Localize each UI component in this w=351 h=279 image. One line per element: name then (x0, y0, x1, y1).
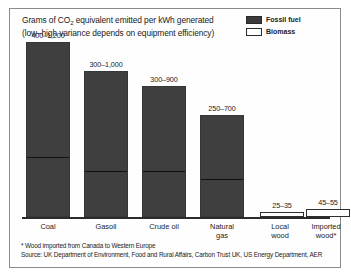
legend-label-fossil: Fossil fuel (266, 16, 301, 23)
bar-low-value-marker (143, 171, 185, 172)
legend-label-biomass: Biomass (266, 28, 295, 35)
bar-biomass (260, 212, 304, 217)
chart-title-line-1: Grams of CO2 equivalent emitted per kWh … (22, 15, 257, 28)
bar-group: 45–55 (306, 209, 350, 217)
bar-group: 300–900 (142, 86, 186, 217)
legend-item-fossil-fuel: Fossil fuel (246, 15, 332, 24)
bar-biomass (306, 209, 350, 217)
chart-legend: Fossil fuel Biomass (246, 15, 332, 39)
bar-value-label: 250–700 (192, 104, 252, 113)
x-axis-label-crude-oil: Crude oil (132, 222, 196, 231)
bar-value-label: 45–55 (298, 198, 351, 207)
chart-source: Source: UK Department of Environment, Fo… (21, 250, 333, 259)
chart-footnote: * Wood imported from Canada to Western E… (21, 241, 333, 250)
x-axis-label-coal: Coal (16, 222, 80, 231)
x-axis-label-line: wood* (294, 231, 351, 240)
x-axis-label-line: Natural (190, 222, 254, 231)
x-axis-label-gasoil: Gasoil (74, 222, 138, 231)
x-axis-label-natural-gas: Naturalgas (190, 222, 254, 240)
bar-value-label: 300–1,000 (76, 60, 136, 69)
bar-value-label: 300–900 (134, 75, 194, 84)
x-axis-label-line: gas (190, 231, 254, 240)
chart-plot-area: 400–1,200300–1,000300–900250–70025–3545–… (22, 41, 330, 219)
bar-fossil (26, 42, 70, 217)
x-axis-label-line: Crude oil (132, 222, 196, 231)
title-text-post: equivalent emitted per kWh generated (73, 15, 213, 25)
bar-group: 25–35 (260, 212, 304, 217)
legend-item-biomass: Biomass (246, 27, 332, 36)
bar-low-value-marker (85, 171, 127, 172)
legend-swatch-fossil-icon (246, 16, 262, 24)
bar-group: 250–700 (200, 115, 244, 217)
bar-fossil (84, 71, 128, 217)
bar-value-label: 400–1,200 (18, 31, 78, 40)
bar-low-value-marker (201, 179, 243, 180)
bar-group: 300–1,000 (84, 71, 128, 217)
bar-fossil (200, 115, 244, 217)
chart-notes: * Wood imported from Canada to Western E… (21, 241, 333, 259)
title-text-pre: Grams of CO (22, 15, 70, 25)
x-axis-line (22, 217, 330, 219)
bar-low-value-marker (27, 157, 69, 158)
x-axis-label-line: Gasoil (74, 222, 138, 231)
bar-fossil (142, 86, 186, 217)
bar-group: 400–1,200 (26, 42, 70, 217)
x-axis-label-imported-wood: Importedwood* (294, 222, 351, 240)
x-axis-label-line: Coal (16, 222, 80, 231)
chart-figure: Grams of CO2 equivalent emitted per kWh … (9, 8, 341, 268)
x-axis-label-line: Imported (294, 222, 351, 231)
legend-swatch-biomass-icon (246, 28, 262, 36)
